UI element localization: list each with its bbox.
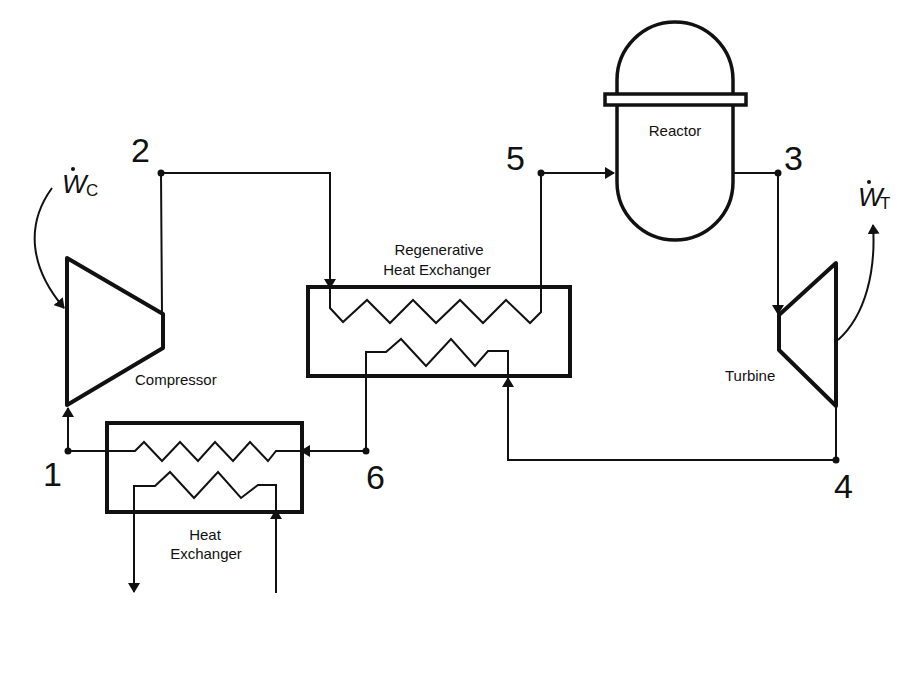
compressor-work-arrow [35,188,64,308]
turbine-work-arrow [838,225,874,340]
compressor-work-symbol: W [62,169,89,199]
turbine-label: Turbine [725,367,775,384]
state-1-label: 1 [43,455,62,493]
reactor-label: Reactor [649,122,702,139]
heat-exchanger-label-2: Exchanger [170,545,242,562]
node-5 [538,170,545,177]
regenerator-label-1: Regenerative [394,241,483,258]
regenerator-label-2: Heat Exchanger [383,261,491,278]
turbine [779,263,836,406]
state-6-label: 6 [366,458,385,496]
compressor-label: Compressor [135,371,217,388]
state-5-label: 5 [506,139,525,177]
node-2 [158,170,165,177]
node-4 [833,457,840,464]
turbine-work-subscript: T [880,194,890,213]
work-dot-t [867,180,871,184]
line-2-to-regen [161,173,330,314]
regenerator-hot-coil [366,339,508,451]
heat-exchanger-label-1: Heat [189,526,222,543]
heat-exchanger-cycle-coil [68,408,301,461]
regenerator-box [308,287,570,376]
cycle-diagram: Compressor W C 2 Regenerative Heat Excha… [0,0,917,678]
state-4-label: 4 [834,467,853,505]
work-dot-c [71,167,75,171]
node-6 [363,448,370,455]
state-3-label: 3 [784,139,803,177]
line-4-to-regen [508,378,836,460]
line-reactor-to-3-to-turbine [733,173,778,314]
state-2-label: 2 [131,131,150,169]
compressor-work-subscript: C [86,181,98,200]
heat-exchanger-box [107,423,302,512]
node-1 [65,448,72,455]
node-3 [775,170,782,177]
